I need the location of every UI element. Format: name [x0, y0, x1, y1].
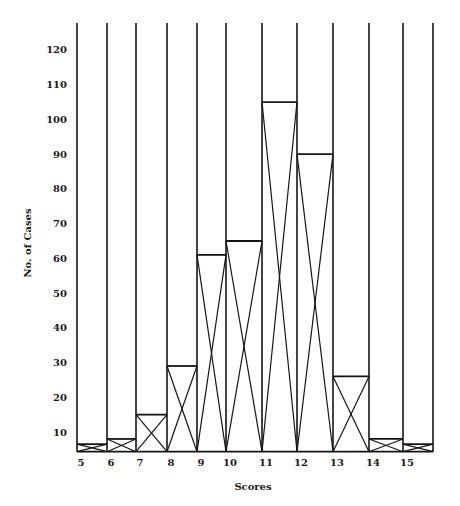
bar-12 — [297, 154, 333, 452]
y-axis-tick-labels: 102030405060708090100110120 — [46, 44, 67, 437]
y-tick-label: 110 — [46, 79, 67, 90]
y-tick-label: 50 — [53, 288, 67, 299]
y-tick-label: 80 — [53, 183, 67, 194]
y-tick-label: 90 — [53, 149, 67, 160]
bar-9 — [197, 255, 226, 452]
x-tick-label: 12 — [294, 457, 308, 468]
bar-15 — [403, 444, 433, 452]
x-tick-label: 7 — [137, 457, 144, 468]
bar-8 — [167, 366, 197, 452]
bar-10 — [226, 241, 262, 452]
bar-5 — [77, 444, 107, 452]
x-tick-label: 6 — [108, 457, 115, 468]
bar-11 — [262, 102, 297, 452]
y-tick-label: 100 — [46, 114, 67, 125]
y-tick-label: 10 — [53, 427, 67, 438]
x-tick-label: 11 — [259, 457, 273, 468]
bar-14 — [369, 439, 403, 452]
y-tick-label: 70 — [53, 218, 67, 229]
y-axis-title: No. of Cases — [22, 208, 33, 277]
x-tick-label: 9 — [198, 457, 205, 468]
x-tick-label: 5 — [78, 457, 85, 468]
x-tick-label: 14 — [366, 457, 380, 468]
x-tick-label: 10 — [223, 457, 237, 468]
x-tick-label: 15 — [400, 457, 414, 468]
bar-13 — [333, 376, 369, 451]
histogram-chart: 102030405060708090100110120 567891011121… — [0, 0, 460, 506]
bar-7 — [136, 415, 167, 452]
y-tick-label: 30 — [53, 357, 67, 368]
column-dividers — [77, 23, 433, 452]
y-tick-label: 120 — [46, 44, 67, 55]
x-axis-tick-labels: 56789101112131415 — [78, 457, 414, 468]
x-tick-label: 13 — [330, 457, 344, 468]
y-tick-label: 40 — [53, 322, 67, 333]
y-tick-label: 60 — [53, 253, 67, 264]
bars — [77, 102, 433, 452]
bar-6 — [107, 439, 136, 452]
x-axis-title: Scores — [234, 481, 272, 492]
y-tick-label: 20 — [53, 392, 67, 403]
x-tick-label: 8 — [168, 457, 175, 468]
